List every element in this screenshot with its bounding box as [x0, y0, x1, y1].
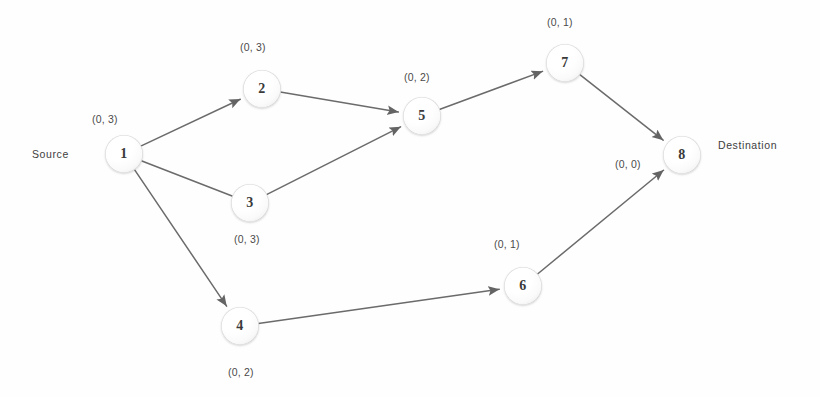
edge-5-to-7 — [439, 71, 542, 109]
graph-node-1[interactable]: 1 — [105, 135, 143, 173]
cost-label-node-5: (0, 2) — [404, 71, 430, 83]
cost-label-node-6: (0, 1) — [494, 238, 520, 250]
cost-label-node-4: (0, 2) — [228, 366, 254, 378]
edge-1-to-4 — [134, 169, 226, 306]
graph-node-3[interactable]: 3 — [231, 184, 269, 222]
edge-2-to-5 — [280, 92, 398, 112]
destination-label: Destination — [718, 139, 777, 151]
graph-diagram: 12345678 Source Destination (0, 3)(0, 3)… — [0, 0, 820, 397]
cost-label-node-7: (0, 1) — [547, 16, 573, 28]
edge-6-to-8 — [537, 170, 663, 274]
graph-node-8[interactable]: 8 — [663, 136, 701, 174]
cost-label-node-8: (0, 0) — [615, 158, 641, 170]
graph-node-2[interactable]: 2 — [243, 70, 281, 108]
cost-label-node-2: (0, 3) — [240, 41, 266, 53]
source-label: Source — [32, 148, 69, 160]
graph-node-7[interactable]: 7 — [546, 44, 584, 82]
edge-7-to-8 — [580, 74, 664, 140]
edge-3-to-5 — [267, 127, 401, 195]
edge-1-to-2 — [141, 99, 241, 146]
cost-label-node-1: (0, 3) — [92, 113, 118, 125]
cost-label-node-3: (0, 3) — [234, 233, 260, 245]
graph-node-4[interactable]: 4 — [221, 307, 259, 345]
edge-4-to-6 — [258, 289, 499, 323]
edge-layer — [0, 0, 820, 397]
edge-1-to-3 — [141, 161, 233, 197]
edges — [134, 71, 663, 323]
graph-node-6[interactable]: 6 — [504, 267, 542, 305]
graph-node-5[interactable]: 5 — [403, 97, 441, 135]
